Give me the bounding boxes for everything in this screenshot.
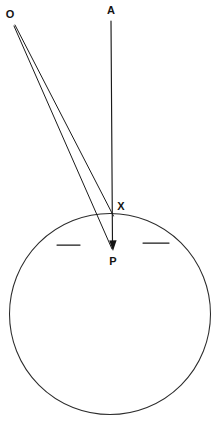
geometry-diagram: O A X P xyxy=(0,0,216,422)
label-p: P xyxy=(109,255,116,267)
ray-o-to-x xyxy=(15,25,114,216)
label-a: A xyxy=(107,4,115,16)
label-o: O xyxy=(6,8,15,20)
label-x: X xyxy=(117,200,125,212)
ray-o-to-p xyxy=(14,26,112,249)
diagram-canvas: O A X P xyxy=(0,0,216,422)
